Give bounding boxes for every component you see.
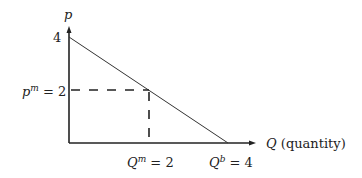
qm-label: Qm = 2 — [127, 155, 174, 169]
qb-value: = 4 — [225, 155, 252, 170]
pm-value: = 2 — [39, 84, 66, 99]
demand-diagram: p 4 pm = 2 Q (quantity) Qm = 2 Qb = 4 — [0, 0, 362, 178]
x-axis-var: Q — [266, 136, 277, 151]
pm-sup: m — [30, 83, 39, 93]
qb-label: Qb = 4 — [209, 155, 253, 169]
qm-value: = 2 — [146, 155, 173, 170]
y-axis-arrow-icon — [67, 26, 72, 33]
x-axis-label: Q (quantity) — [266, 137, 346, 150]
qm-base: Q — [127, 155, 138, 170]
x-axis-text: (quantity) — [277, 136, 346, 151]
pm-label: pm = 2 — [22, 84, 66, 98]
x-axis-arrow-icon — [249, 141, 256, 146]
y-axis-label: p — [64, 8, 72, 21]
qb-base: Q — [209, 155, 220, 170]
y-tick-4: 4 — [53, 31, 61, 44]
qm-sup: m — [138, 154, 147, 164]
